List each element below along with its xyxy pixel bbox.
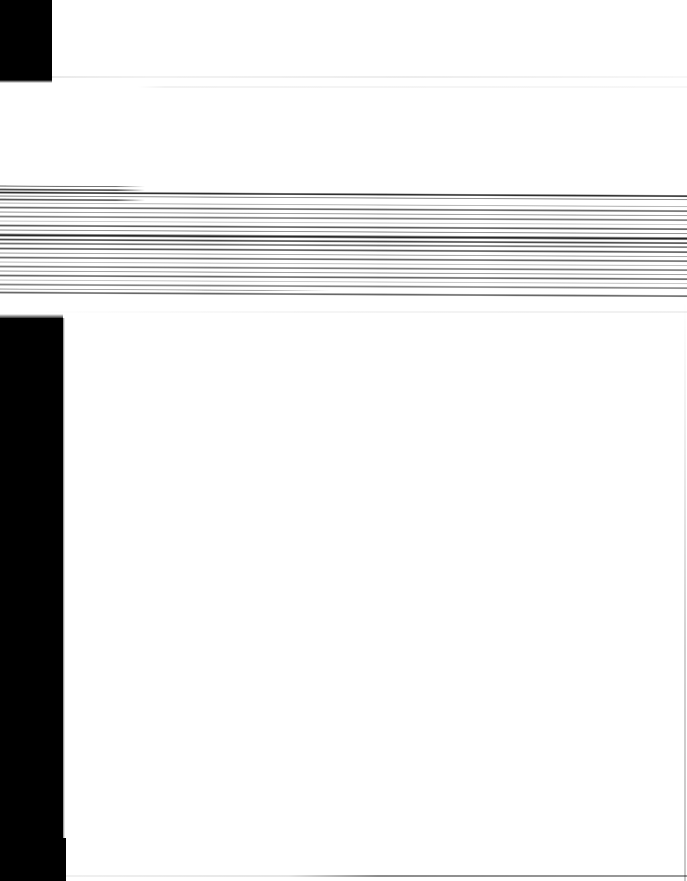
hairline-mid [0, 311, 687, 313]
top-left-black-block [0, 0, 52, 80]
left-black-sidebar-band[interactable] [0, 318, 63, 881]
hairline-bottom [0, 875, 687, 877]
right-vertical-hairline [684, 300, 686, 881]
smear-streak [0, 291, 687, 298]
smeared-content-band [0, 183, 687, 297]
hairline-top-a [0, 76, 687, 78]
hairline-top-b [0, 86, 687, 88]
screenshot-canvas [0, 0, 687, 881]
